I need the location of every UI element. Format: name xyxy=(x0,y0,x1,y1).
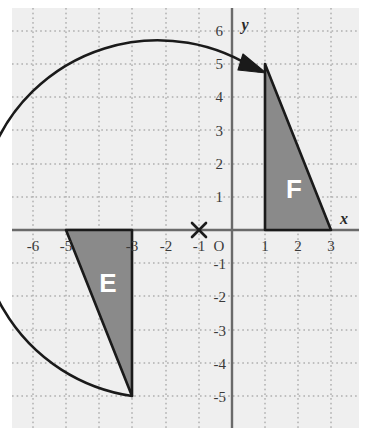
x-tick-label-2: 2 xyxy=(294,238,302,254)
x-tick-label-neg5: -5 xyxy=(60,238,73,254)
y-axis-label: y xyxy=(239,16,249,34)
x-tick-label-3: 3 xyxy=(327,238,335,254)
y-tick-label-6: 6 xyxy=(216,23,224,39)
x-axis-label: x xyxy=(339,210,348,227)
y-tick-label-1: 1 xyxy=(216,189,224,205)
x-tick-label-neg6: -6 xyxy=(27,238,40,254)
x-tick-label-1: 1 xyxy=(261,238,269,254)
y-tick-label-neg5: -5 xyxy=(214,389,227,405)
origin-label: O xyxy=(214,238,225,254)
figure-container: E F -6 -5 -3 -2 -1 O 1 2 3 1 2 3 4 5 6 -… xyxy=(0,0,371,437)
y-tick-label-3: 3 xyxy=(216,123,224,139)
triangle-f-label: F xyxy=(286,174,302,204)
triangle-e-label: E xyxy=(99,268,116,298)
y-tick-label-5: 5 xyxy=(216,56,224,72)
y-tick-label-neg2: -2 xyxy=(214,289,227,305)
x-tick-label-neg3: -3 xyxy=(126,238,139,254)
y-tick-label-2: 2 xyxy=(216,156,224,172)
y-tick-label-neg1: -1 xyxy=(214,256,227,272)
x-tick-label-neg2: -2 xyxy=(160,238,173,254)
x-tick-label-neg1: -1 xyxy=(193,238,206,254)
y-tick-label-4: 4 xyxy=(216,89,224,105)
coordinate-plot: E F -6 -5 -3 -2 -1 O 1 2 3 1 2 3 4 5 6 -… xyxy=(0,0,371,437)
y-tick-label-neg3: -3 xyxy=(214,323,227,339)
y-tick-label-neg4: -4 xyxy=(214,356,227,372)
